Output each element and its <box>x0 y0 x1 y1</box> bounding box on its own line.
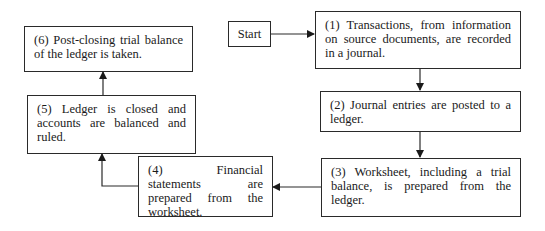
step-3-worksheet: (3) Worksheet, including a trial balance… <box>321 158 521 217</box>
arrow-4-to-5 <box>102 154 138 186</box>
start-node: Start <box>228 21 271 47</box>
step-4-financial-statements: (4) Financial statements are prepared fr… <box>138 156 273 217</box>
step-6-post-closing-trial-balance: (6) Post-closing trial balance of the le… <box>24 26 193 72</box>
step-1-record-journal: (1) Transactions, from information on so… <box>315 11 521 69</box>
step-2-post-ledger: (2) Journal entries are posted to a ledg… <box>320 91 521 132</box>
step-5-ledger-closed: (5) Ledger is closed and accounts are ba… <box>27 95 196 154</box>
